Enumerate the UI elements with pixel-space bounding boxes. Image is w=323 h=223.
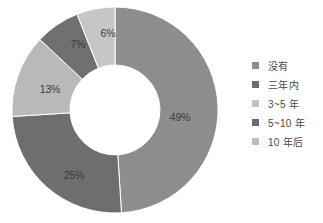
legend-item-label: 3~5 年 xyxy=(268,96,299,111)
legend-item-3[interactable]: 3~5 年 xyxy=(252,94,320,113)
donut-chart-plot-area: 49%25%13%7%6% xyxy=(8,2,222,220)
legend-swatch-icon-5 xyxy=(252,138,259,145)
chart-legend: 没有三年内3~5 年5~10 年10 年后 xyxy=(252,56,320,151)
donut-slice-label-3: 13% xyxy=(40,83,60,95)
donut-slice-label-1: 49% xyxy=(170,111,190,123)
legend-item-5[interactable]: 10 年后 xyxy=(252,132,320,151)
donut-slice-label-5: 6% xyxy=(101,27,116,39)
legend-item-4[interactable]: 5~10 年 xyxy=(252,113,320,132)
donut-slice-label-2: 25% xyxy=(64,169,84,181)
legend-swatch-icon-2 xyxy=(252,81,259,88)
legend-swatch-icon-1 xyxy=(252,62,259,69)
legend-item-1[interactable]: 没有 xyxy=(252,56,320,75)
legend-item-2[interactable]: 三年内 xyxy=(252,75,320,94)
legend-swatch-icon-4 xyxy=(252,119,259,126)
legend-swatch-icon-3 xyxy=(252,100,259,107)
legend-item-label: 10 年后 xyxy=(268,134,303,149)
legend-item-label: 5~10 年 xyxy=(268,115,305,130)
donut-slice-1[interactable] xyxy=(115,7,218,213)
legend-item-label: 三年内 xyxy=(268,77,299,92)
donut-slice-label-4: 7% xyxy=(71,38,86,50)
donut-slice-2[interactable] xyxy=(12,113,121,213)
donut-chart-figure: 49%25%13%7%6% 没有三年内3~5 年5~10 年10 年后 xyxy=(0,0,323,223)
donut-chart-svg: 49%25%13%7%6% xyxy=(8,2,222,220)
legend-item-label: 没有 xyxy=(268,58,289,73)
